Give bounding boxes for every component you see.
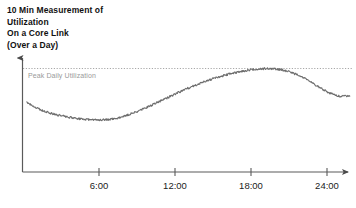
title-line-2: Utilization	[7, 17, 103, 29]
title-line-4: (Over a Day)	[7, 40, 103, 52]
time-axis-tick-label: 6:00	[90, 180, 109, 191]
title-line-3: On a Core Link	[7, 28, 103, 40]
time-axis-tick-label: 12:00	[163, 180, 187, 191]
time-axis-tick-label: 24:00	[315, 180, 339, 191]
chart-figure: 10 Min Measurement of Utilization On a C…	[0, 0, 356, 208]
page-title: 10 Min Measurement of Utilization On a C…	[7, 5, 103, 51]
peak-daily-utilization-label: Peak Daily Utilization	[28, 72, 96, 79]
time-axis-tick-label: 18:00	[239, 180, 263, 191]
title-line-1: 10 Min Measurement of	[7, 5, 103, 17]
